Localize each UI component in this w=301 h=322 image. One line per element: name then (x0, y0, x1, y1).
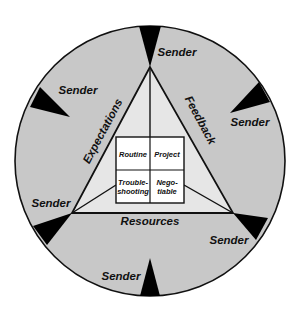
sender-label-upper-left: Sender (59, 84, 99, 96)
side-label-resources: Resources (121, 215, 180, 227)
cell-project: Project (154, 150, 180, 159)
sender-label-left: Sender (32, 197, 72, 209)
cell-negotiable-line2: tiable (157, 187, 177, 196)
sender-label-bottom: Sender (102, 270, 142, 282)
cell-troubleshooting-line2: shooting (117, 187, 149, 196)
sender-label-right: Sender (231, 116, 271, 128)
cell-routine: Routine (119, 150, 147, 159)
sender-label-top-right: Sender (158, 46, 198, 58)
cell-negotiable-line1: Nego- (156, 178, 178, 187)
sender-communication-diagram: Routine Project Trouble- shooting Nego- … (0, 0, 301, 322)
cell-troubleshooting-line1: Trouble- (118, 178, 148, 187)
sender-label-lower-right: Sender (210, 234, 250, 246)
